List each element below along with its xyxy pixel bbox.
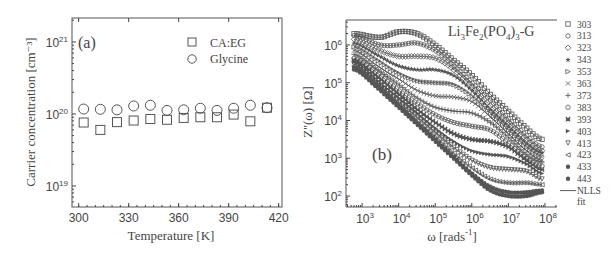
panel-b-label: (b): [372, 145, 392, 164]
legend-marker-icon: [566, 69, 570, 73]
legend-label-363: 363: [577, 79, 592, 89]
panel-a-label: (a): [78, 34, 96, 52]
data-point-glycine: [195, 103, 205, 113]
x-tick-label: 360: [169, 211, 189, 225]
data-point-glycine: [262, 103, 272, 113]
y-tick-label: 105: [324, 76, 342, 91]
data-point-caeg: [196, 113, 205, 122]
legend-marker-icon: [566, 165, 570, 169]
legend-label-303: 303: [577, 20, 592, 30]
data-point-caeg: [229, 110, 238, 119]
panel-b-compound-title: Li3Fe2(PO4)3-G: [448, 24, 534, 42]
legend-label-323: 323: [577, 43, 592, 53]
legend-label-353: 353: [577, 67, 592, 77]
data-point: [430, 104, 435, 109]
data-point: [439, 106, 444, 111]
legend-marker-icon: [566, 117, 570, 121]
legend-marker-icon: [566, 105, 570, 109]
x-tick-label: 105: [429, 211, 447, 226]
legend-marker-icon: [565, 57, 570, 62]
panel-a-x-axis-title: Temperature [K]: [128, 228, 215, 243]
data-point: [540, 190, 544, 194]
y-tick-label: 1021: [46, 35, 69, 50]
panel-b-x-axis-title: ω [rads-1]: [427, 227, 477, 244]
data-point-glycine: [229, 103, 239, 113]
series-353K: [352, 45, 544, 159]
panel-a-legend: CA:EG Glycine: [188, 36, 248, 66]
data-point-caeg: [263, 103, 272, 112]
data-point-glycine: [79, 104, 89, 114]
legend-circle-marker-icon: [188, 55, 196, 63]
data-point-glycine: [129, 101, 139, 111]
data-point: [436, 106, 441, 111]
legend-label-373: 373: [577, 91, 592, 101]
legend-marker-icon: [566, 34, 570, 38]
data-point: [540, 137, 544, 141]
panel-a-y-axis-title: Carrier concentration [cm⁻³]: [23, 37, 38, 186]
x-tick-label: 104: [393, 211, 411, 226]
legend-marker-icon: [566, 153, 570, 157]
y-tick-label: 102: [324, 189, 342, 204]
legend-label-fit: fit: [577, 197, 586, 207]
data-point-caeg: [163, 115, 172, 124]
data-point: [442, 107, 447, 112]
legend-label-ca-eg: CA:EG: [210, 36, 246, 50]
nlls-fit-line: [354, 43, 542, 153]
data-point-caeg: [129, 116, 138, 125]
x-tick-label: 108: [539, 211, 557, 226]
legend-square-marker-icon: [188, 38, 196, 46]
legend-label-313: 313: [577, 31, 592, 41]
legend-marker-icon: [566, 81, 570, 85]
data-point-caeg: [113, 118, 122, 127]
data-point-caeg: [79, 118, 88, 127]
panel-b-impedance-spectra: 103104105106107108 102103104105106 Li3Fe…: [300, 20, 601, 245]
data-point: [470, 110, 475, 115]
y-tick-label: 1020: [46, 107, 69, 122]
data-point: [428, 93, 432, 97]
y-tick-label: 1019: [46, 179, 69, 194]
panel-b-y-axis-title: Z''(ω) [Ω]: [300, 86, 315, 137]
legend-label-403: 403: [577, 127, 592, 137]
legend-label-413: 413: [577, 139, 592, 149]
data-point-glycine: [212, 105, 222, 115]
data-point-caeg: [146, 115, 155, 124]
y-tick-label: 103: [324, 151, 342, 166]
data-point: [473, 111, 478, 116]
figure: 300330360390420 101910201021 (a) CA:EG G…: [0, 0, 613, 259]
x-tick-label: 300: [69, 211, 89, 225]
legend-marker-icon: [566, 141, 570, 145]
panel-b-legend: 3033133233433533633733833934034134234334…: [560, 20, 601, 207]
legend-label-383: 383: [577, 103, 592, 113]
data-point-glycine: [245, 100, 255, 110]
x-tick-label: 106: [466, 211, 484, 226]
panel-a-y-ticks: 101910201021: [46, 20, 76, 202]
panel-a-data-points: [79, 100, 272, 134]
panel-b-curves: [351, 29, 545, 199]
legend-label-433: 433: [577, 162, 592, 172]
data-point-caeg: [246, 117, 255, 126]
x-tick-label: 330: [119, 211, 139, 225]
legend-marker-icon: [565, 93, 570, 98]
legend-marker-icon: [566, 129, 570, 133]
data-point-glycine: [95, 104, 105, 114]
legend-marker-icon: [565, 45, 571, 51]
data-point: [540, 177, 544, 181]
y-tick-label: 104: [324, 113, 342, 128]
data-point: [445, 108, 450, 113]
x-tick-label: 107: [502, 211, 520, 226]
data-point-glycine: [112, 105, 122, 115]
data-point: [433, 105, 438, 110]
data-point: [464, 109, 469, 114]
panel-b-x-ticks: 103104105106107108: [348, 203, 558, 226]
x-tick-label: 390: [219, 211, 239, 225]
legend-label-393: 393: [577, 115, 592, 125]
data-point: [448, 108, 453, 113]
legend-label-nlls: NLLS: [577, 186, 601, 196]
legend-label-glycine: Glycine: [210, 52, 248, 66]
legend-marker-icon: [566, 177, 570, 181]
data-point: [467, 110, 472, 115]
data-point-glycine: [162, 105, 172, 115]
data-point-glycine: [145, 100, 155, 110]
legend-label-423: 423: [577, 150, 592, 160]
legend-label-443: 443: [577, 174, 592, 184]
